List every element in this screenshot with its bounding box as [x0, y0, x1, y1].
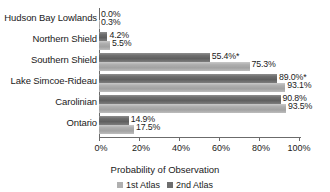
bar-first-atlas-carolinian: [99, 104, 286, 113]
category-label-northern-shield: Northern Shield: [32, 34, 97, 44]
bar-first-atlas-northern-shield: [99, 41, 110, 50]
plot-area: 0.0% 0.3% 4.2% 5.5% 55.4%* 75.3% 89.0%* …: [99, 8, 300, 136]
x-tick-60: [219, 137, 220, 141]
category-label-carolinian: Carolinian: [55, 97, 97, 107]
bar-first-atlas-ontario: [99, 125, 134, 134]
x-tick-0: [99, 137, 100, 141]
bar-second-atlas-southern-shield: [99, 53, 210, 62]
x-axis-title: Probability of Observation: [0, 164, 330, 175]
x-tick-label-100: 100%: [287, 143, 310, 153]
bar-first-atlas-hudson-bay-lowlands: [99, 20, 100, 29]
legend-swatch-second-atlas-icon: [167, 182, 173, 188]
category-label-ontario: Ontario: [67, 118, 97, 128]
bar-value-first-atlas-northern-shield: 5.5%: [112, 39, 131, 48]
bar-chart: Hudson Bay Lowlands Northern Shield Sout…: [0, 0, 330, 192]
x-tick-20: [139, 137, 140, 141]
bar-first-atlas-lake-simcoe-rideau: [99, 83, 285, 92]
x-axis-line: [99, 137, 301, 138]
x-tick-label-20: 20%: [132, 143, 150, 153]
legend-label-second-atlas: 2nd Atlas: [176, 180, 213, 190]
category-label-lake-simcoe-rideau: Lake Simcoe-Rideau: [11, 76, 97, 86]
x-tick-label-60: 60%: [212, 143, 230, 153]
category-label-southern-shield: Southern Shield: [31, 55, 97, 65]
bar-value-first-atlas-hudson-bay-lowlands: 0.3%: [101, 18, 120, 27]
legend-swatch-first-atlas-icon: [117, 182, 123, 188]
bar-value-first-atlas-ontario: 17.5%: [136, 123, 160, 132]
bar-value-first-atlas-southern-shield: 75.3%: [252, 60, 276, 69]
x-tick-80: [259, 137, 260, 141]
x-tick-40: [179, 137, 180, 141]
x-tick-100: [299, 137, 300, 141]
x-tick-label-80: 80%: [252, 143, 270, 153]
bar-first-atlas-southern-shield: [99, 62, 250, 71]
bar-value-first-atlas-carolinian: 93.5%: [288, 102, 312, 111]
bar-value-second-atlas-southern-shield: 55.4%*: [212, 52, 239, 61]
legend-entry-first-atlas: 1st Atlas: [117, 180, 160, 190]
bar-second-atlas-ontario: [99, 116, 129, 125]
bar-second-atlas-northern-shield: [99, 32, 107, 41]
legend-entry-second-atlas: 2nd Atlas: [167, 180, 213, 190]
legend-label-first-atlas: 1st Atlas: [126, 180, 160, 190]
category-label-hudson-bay-lowlands: Hudson Bay Lowlands: [4, 13, 97, 23]
bar-second-atlas-lake-simcoe-rideau: [99, 74, 277, 83]
bar-second-atlas-carolinian: [99, 95, 281, 104]
bar-value-first-atlas-lake-simcoe-rideau: 93.1%: [287, 81, 311, 90]
x-tick-label-40: 40%: [172, 143, 190, 153]
chart-legend: 1st Atlas 2nd Atlas: [0, 180, 330, 190]
x-tick-label-0: 0%: [94, 143, 107, 153]
